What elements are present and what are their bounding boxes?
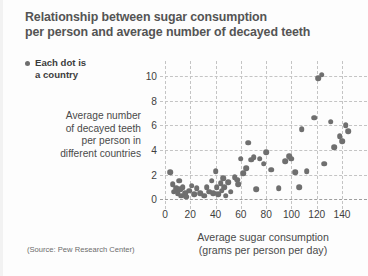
- scatter-point: [328, 119, 334, 125]
- legend-label: Each dot is a country: [35, 57, 86, 80]
- scatter-point: [191, 192, 197, 198]
- scatter-point: [261, 161, 267, 167]
- x-axis-tick-label: 40: [210, 209, 221, 220]
- scatter-point: [184, 194, 190, 200]
- chart-title: Relationship between sugar consumption p…: [25, 10, 355, 40]
- scatter-point: [292, 169, 298, 175]
- scatter-point: [289, 156, 295, 162]
- scatter-point: [263, 150, 269, 156]
- scatter-point: [339, 138, 345, 144]
- scatter-point: [209, 178, 215, 184]
- chart-title-line-1: Relationship between sugar consumption: [25, 10, 355, 25]
- y-axis-title-line-4: different countries: [31, 148, 141, 161]
- x-axis-tick-label: 20: [185, 209, 196, 220]
- gridline-vertical: [165, 61, 166, 209]
- scatter-point: [213, 168, 219, 174]
- scatter-point: [296, 184, 302, 190]
- chart-container: Relationship between sugar consumption p…: [0, 0, 368, 276]
- scatter-point: [222, 184, 228, 190]
- gridline-vertical: [241, 61, 242, 209]
- scatter-point: [346, 129, 352, 135]
- scatter-point: [241, 171, 247, 177]
- y-axis-tick-label: 2: [151, 169, 157, 180]
- scatter-point: [299, 126, 305, 132]
- y-axis-tick-label: 8: [151, 95, 157, 106]
- x-axis-title-line-1: Average sugar consumption: [163, 231, 363, 244]
- y-axis-tick-label: 6: [151, 120, 157, 131]
- scatter-plot-area: 0246810020406080100120140: [165, 66, 361, 203]
- scatter-point: [238, 156, 244, 162]
- scatter-point: [276, 185, 282, 191]
- scatter-point: [180, 184, 186, 190]
- y-axis-title-line-2: of decayed teeth: [31, 123, 141, 136]
- scatter-point: [322, 161, 328, 167]
- x-axis-title-line-2: (grams per person per day): [163, 244, 363, 257]
- x-axis-tick-label: 140: [334, 209, 351, 220]
- y-axis-tick-label: 0: [151, 194, 157, 205]
- gridline-vertical: [317, 61, 318, 209]
- scatter-point: [311, 115, 317, 121]
- legend-dot-icon: [25, 61, 30, 66]
- scatter-point: [304, 168, 310, 174]
- y-axis-title: Average number of decayed teeth per pers…: [31, 110, 141, 160]
- y-axis-tick-label: 10: [146, 70, 157, 81]
- scatter-point: [176, 178, 182, 184]
- scatter-point: [228, 189, 234, 195]
- source-attribution: (Source: Pew Research Center): [27, 245, 135, 254]
- x-axis-tick-label: 100: [283, 209, 300, 220]
- legend-label-line-1: Each dot is: [35, 57, 86, 69]
- scatter-point: [282, 158, 288, 164]
- scatter-point: [251, 155, 257, 161]
- scatter-point: [225, 179, 231, 185]
- scatter-point: [243, 166, 249, 172]
- gridline-vertical: [291, 61, 292, 209]
- scatter-point: [319, 72, 325, 78]
- scatter-point: [332, 145, 338, 151]
- y-axis-title-line-3: per person in: [31, 135, 141, 148]
- y-axis-title-line-1: Average number: [31, 110, 141, 123]
- scatter-point: [236, 182, 242, 188]
- x-axis-tick-label: 0: [162, 209, 168, 220]
- scatter-point: [253, 187, 259, 193]
- scatter-point: [268, 167, 274, 173]
- chart-legend: Each dot is a country: [25, 57, 86, 80]
- x-axis-tick-label: 80: [260, 209, 271, 220]
- x-axis-tick-label: 60: [235, 209, 246, 220]
- x-axis-title: Average sugar consumption (grams per per…: [163, 231, 363, 257]
- gridline-vertical: [266, 61, 267, 209]
- scatter-point: [167, 169, 173, 175]
- chart-title-line-2: per person and average number of decayed…: [25, 25, 355, 40]
- y-axis-tick-label: 4: [151, 144, 157, 155]
- scatter-point: [246, 140, 252, 146]
- scatter-point: [343, 122, 349, 128]
- legend-label-line-2: a country: [35, 69, 86, 81]
- x-axis-tick-label: 120: [308, 209, 325, 220]
